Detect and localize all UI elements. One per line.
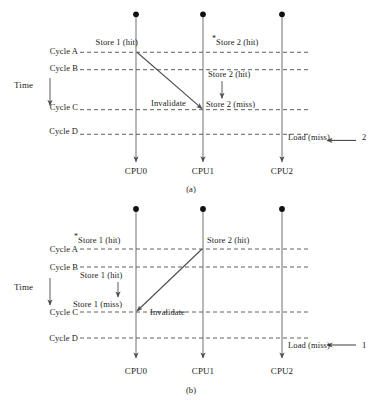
cycle-label-c: Cycle C <box>50 308 78 317</box>
panel-b-stage: Cycle A Cycle B Cycle C Cycle D Time *St… <box>0 200 382 405</box>
annotation-cpu0-store-mid: Store 1 (hit) <box>80 271 122 280</box>
panel-a-stage: Cycle A Cycle B Cycle C Cycle D Time Sto… <box>0 0 382 200</box>
cycle-label-a: Cycle A <box>50 245 78 254</box>
cpu-lifelines <box>136 210 282 358</box>
annotation-cpu0-store: Store 1 (hit) <box>96 38 138 47</box>
annotation-load-miss: Load (miss) <box>288 133 330 142</box>
cycle-label-c: Cycle C <box>50 103 78 112</box>
annotation-cpu0-store-text: Store 1 (hit) <box>96 37 138 47</box>
annotation-cpu1-store-mid: Store 2 (hit) <box>208 70 250 79</box>
cycle-label-d: Cycle D <box>49 127 78 136</box>
lifeline-start-dots <box>133 206 285 212</box>
annotation-load-miss-value: 2 <box>362 133 366 142</box>
annotation-cpu1-store-top-text: Store 2 (hit) <box>216 37 258 47</box>
annotation-cpu0-store-top: *Store 1 (hit) <box>74 236 121 245</box>
time-axis-label: Time <box>14 283 33 292</box>
cpu-label-cpu0: CPU0 <box>125 367 147 376</box>
cycle-label-b: Cycle B <box>50 263 78 272</box>
annotation-load-miss: Load (miss) <box>288 341 330 350</box>
panel-a-caption: (a) <box>186 185 196 194</box>
cycle-label-d: Cycle D <box>49 334 78 343</box>
panel-a: Cycle A Cycle B Cycle C Cycle D Time Sto… <box>0 0 382 200</box>
cycle-label-a: Cycle A <box>50 47 78 56</box>
cpu-lifelines <box>136 15 282 162</box>
annotation-cpu1-store-miss: Store 2 (miss) <box>206 100 255 109</box>
cpu-label-cpu1: CPU1 <box>192 367 214 376</box>
cycle-gridlines <box>80 52 310 134</box>
invalidate-arrow <box>137 249 202 311</box>
panel-b-caption: (b) <box>186 386 196 395</box>
annotation-invalidate: Invalidate <box>151 99 186 108</box>
annotation-load-miss-value: 1 <box>362 341 366 350</box>
annotation-invalidate: Invalidate <box>150 308 185 317</box>
annotation-cpu1-store-top: *Store 2 (hit) <box>212 38 259 47</box>
annotation-cpu1-store: Store 2 (hit) <box>207 236 249 245</box>
panel-b: Cycle A Cycle B Cycle C Cycle D Time *St… <box>0 200 382 405</box>
cycle-label-b: Cycle B <box>50 64 78 73</box>
lifeline-start-dots <box>133 11 285 17</box>
cpu-label-cpu2: CPU2 <box>271 167 293 176</box>
annotation-cpu0-store-miss: Store 1 (miss) <box>73 300 122 309</box>
cpu-label-cpu0: CPU0 <box>125 167 147 176</box>
cycle-gridlines <box>80 249 310 338</box>
cpu-label-cpu1: CPU1 <box>192 167 214 176</box>
time-axis-label: Time <box>14 81 33 90</box>
cpu-label-cpu2: CPU2 <box>271 367 293 376</box>
annotation-cpu0-store-top-text: Store 1 (hit) <box>78 235 120 245</box>
